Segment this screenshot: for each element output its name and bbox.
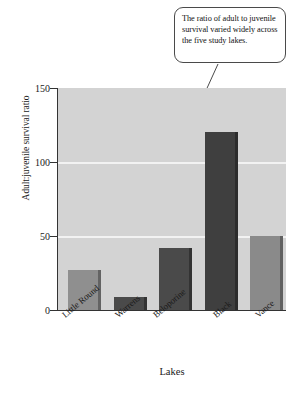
y-axis-line bbox=[57, 88, 58, 311]
x-axis-title: Lakes bbox=[58, 366, 286, 377]
bar-body bbox=[205, 132, 238, 310]
y-tick-label-50: 50 bbox=[16, 231, 50, 242]
annotation-callout-text: The ratio of adult to juvenile survival … bbox=[182, 13, 279, 47]
x-axis-line bbox=[57, 310, 286, 311]
y-tick-mark-150 bbox=[50, 88, 58, 89]
y-tick-mark-50 bbox=[50, 236, 58, 237]
plot-area bbox=[58, 88, 286, 310]
y-tick-mark-0 bbox=[50, 310, 58, 311]
y-axis-title: Adult:juvenile survival ratio bbox=[21, 78, 31, 218]
bar-black bbox=[205, 132, 238, 310]
y-tick-mark-100 bbox=[50, 162, 58, 163]
bar-shadow-edge bbox=[235, 132, 238, 310]
x-tick-labels: Little Round Warrens Beloporine Black Va… bbox=[58, 312, 286, 368]
bar-chart-figure: The ratio of adult to juvenile survival … bbox=[0, 0, 304, 393]
bar-shadow-edge bbox=[144, 297, 147, 310]
annotation-callout-box: The ratio of adult to juvenile survival … bbox=[174, 7, 286, 63]
bar-shadow-edge bbox=[189, 248, 192, 310]
bar-shadow-edge bbox=[280, 236, 283, 310]
gridline-100 bbox=[58, 162, 286, 164]
y-tick-label-0: 0 bbox=[16, 305, 50, 316]
